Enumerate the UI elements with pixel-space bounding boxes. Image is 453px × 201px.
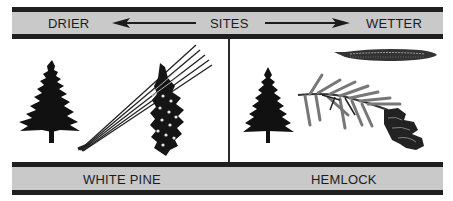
hemlock-cone-icon [384,108,424,150]
hemlock-label: HEMLOCK [311,173,377,186]
hemlock-tree-icon [243,67,294,143]
hemlock-needle-icon [334,49,437,61]
arrow-left-icon [112,18,196,28]
species-divider [228,39,230,162]
species-label-band [12,162,443,195]
white-pine-cone-icon [150,63,184,156]
white-pine-tree-icon [19,60,80,143]
white-pine-needles-icon [78,45,212,151]
white-pine-label: WHITE PINE [83,173,161,186]
arrow-right-icon [265,18,350,28]
